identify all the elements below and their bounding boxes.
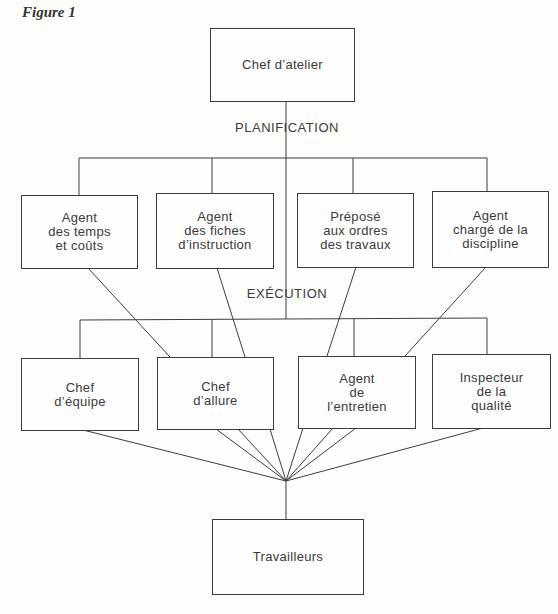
node-label-line: et coûts [56, 239, 104, 253]
node-label-line: d’instruction [178, 238, 251, 252]
node-label-line: Agent [197, 210, 232, 224]
node-label-line: Préposé [330, 210, 381, 224]
node-label-line: Travailleurs [253, 550, 323, 564]
node-chef-atelier: Chef d’atelier [210, 28, 355, 102]
node-agent-fiches-instruction: Agent des fiches d’instruction [156, 193, 274, 269]
node-label-line: de [349, 386, 364, 400]
node-agent-temps-couts: Agent des temps et coûts [21, 195, 138, 269]
execution-label: EXÉCUTION [247, 286, 327, 301]
node-label-line: qualité [471, 399, 511, 413]
node-label-line: Inspecteur [460, 371, 524, 385]
node-label-line: des travaux [320, 238, 391, 252]
node-label-line: de la [477, 385, 507, 399]
node-label-line: chargé de la [453, 223, 528, 237]
node-chef-equipe: Chef d’équipe [21, 358, 139, 431]
node-label-line: des temps [48, 225, 111, 239]
node-label-line: Chef d’atelier [242, 58, 323, 72]
planning-label: PLANIFICATION [235, 120, 339, 135]
node-travailleurs: Travailleurs [212, 519, 364, 595]
node-label-line: d’équipe [54, 395, 106, 409]
node-label-line: Agent [62, 211, 97, 225]
node-label-line: Chef [201, 380, 230, 394]
node-label-line: Agent [339, 372, 374, 386]
node-label-line: d’allure [193, 394, 237, 408]
node-label-line: Agent [473, 209, 508, 223]
node-agent-entretien: Agent de l’entretien [298, 356, 416, 429]
node-label-line: Chef [66, 381, 95, 395]
node-prepose-ordres-travaux: Préposé aux ordres des travaux [297, 193, 414, 268]
node-label-line: aux ordres [323, 224, 387, 238]
node-chef-allure: Chef d’allure [157, 357, 274, 430]
node-label-line: discipline [462, 237, 518, 251]
node-agent-discipline: Agent chargé de la discipline [432, 191, 549, 268]
node-inspecteur-qualite: Inspecteur de la qualité [432, 354, 551, 429]
node-label-line: des fiches [184, 224, 246, 238]
node-label-line: l’entretien [327, 400, 387, 414]
